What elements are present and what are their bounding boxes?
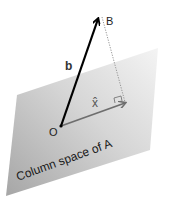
vector-b-label: b bbox=[65, 59, 72, 73]
vector-xhat-label: x̂ bbox=[92, 96, 98, 110]
origin-label: O bbox=[49, 126, 58, 138]
projection-diagram: B b x̂ O Column space of A bbox=[0, 0, 176, 207]
point-b-label: B bbox=[106, 15, 113, 27]
origin-point bbox=[59, 124, 62, 127]
